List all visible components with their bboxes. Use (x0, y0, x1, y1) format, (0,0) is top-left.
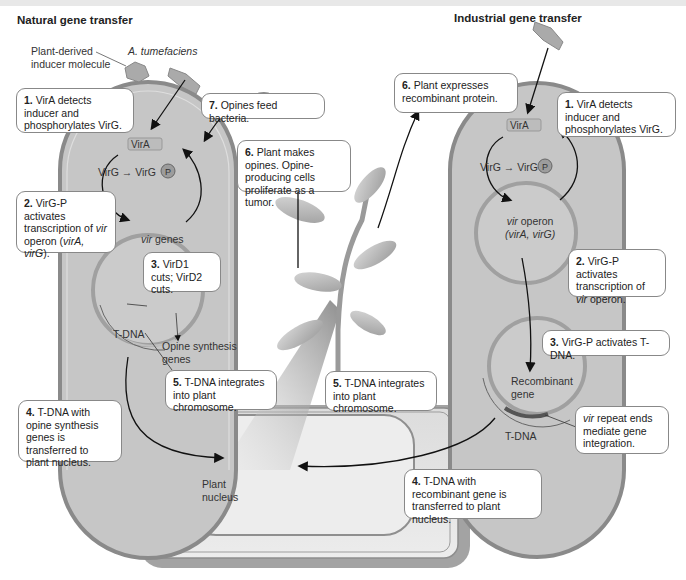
vir-operon-genes: (virA, virG) (505, 228, 555, 241)
vir-operon-label: vir operon (virA, virG) (505, 215, 555, 240)
step-number: 2. (576, 255, 585, 267)
virgp-label: VirG (517, 161, 538, 173)
industrial-title: Industrial gene transfer (454, 12, 582, 24)
p-label-left: P (165, 166, 171, 179)
step-number: 6. (245, 146, 254, 158)
step-italic: vir (96, 222, 107, 234)
recombinant-gene-label: Recombinant gene (511, 375, 573, 400)
step-number: 5. (173, 376, 182, 388)
step-box-natural-7: 7. Opines feed bacteria. (201, 93, 325, 119)
step-number: 3. (550, 336, 559, 348)
step-text: T-DNA integrates into plant chromosome. (173, 376, 264, 413)
organism-label: A. tumefaciens (128, 45, 197, 58)
genes-text: genes (152, 233, 184, 245)
step-italic: vir (583, 412, 594, 424)
vir-italic: vir (141, 233, 152, 245)
opine-line2: genes (162, 353, 237, 366)
step-box-industrial-3: 3. VirG-P activates T-DNA. (542, 330, 670, 356)
step-text: T-DNA with opine synthesis genes is tran… (26, 406, 98, 468)
virg-label: VirG (480, 161, 501, 173)
vir-genes-label: vir genes (141, 233, 184, 246)
operon-text: operon (518, 215, 554, 227)
step-box-vir-repeat: vir repeat ends mediate gene integration… (575, 406, 669, 454)
virg-reaction-right: VirG → VirG (480, 161, 538, 174)
inducer-label-line2: inducer molecule (31, 58, 110, 71)
reaction-arrow-icon: → (504, 161, 515, 173)
step-box-natural-5: 5. T-DNA integrates into plant chromosom… (165, 370, 277, 410)
recombinant-line2: gene (511, 388, 573, 401)
step-number: 7. (209, 99, 218, 111)
step-box-industrial-2: 2. VirG-P activates transcription of vir… (568, 249, 666, 297)
step-box-industrial-5: 5. T-DNA integrates into plant chromosom… (325, 371, 437, 411)
step-number: 3. (151, 258, 160, 270)
step-number: 2. (24, 197, 33, 209)
vira-label-left: VirA (131, 139, 150, 152)
virg-reaction-left: VirG → VirG (98, 166, 156, 179)
inducer-label: Plant-derived inducer molecule (31, 45, 110, 70)
step-italic: vir (576, 293, 587, 305)
step-box-industrial-1: 1. VirA detects inducer and phosphorylat… (557, 92, 676, 137)
step-text: VirG-P activates transcription of (24, 197, 96, 234)
step-text: Plant expresses recombinant protein. (402, 79, 498, 104)
step-number: 1. (24, 94, 33, 106)
step-box-industrial-6: 6. Plant expresses recombinant protein. (394, 73, 518, 113)
step-box-industrial-4: 4. T-DNA with recombinant gene is transf… (404, 469, 542, 519)
reaction-arrow-icon: → (122, 166, 133, 178)
plant-nucleus-label: Plant nucleus (202, 478, 238, 503)
plant-nucleus-line1: Plant (202, 478, 238, 491)
plant-nucleus-line2: nucleus (202, 491, 238, 504)
step-number: 4. (26, 406, 35, 418)
step-number: 4. (412, 475, 421, 487)
virgp-label: VirG (135, 166, 156, 178)
step-text: T-DNA integrates into plant chromosome. (333, 377, 424, 414)
step-text: T-DNA with recombinant gene is transferr… (412, 475, 507, 525)
step-text: repeat ends mediate gene integration. (583, 412, 652, 449)
step-text: VirG-P activates transcription of (576, 255, 645, 292)
vira-label-right: VirA (510, 120, 529, 133)
opine-genes-label: Opine synthesis genes (162, 340, 237, 365)
step-number: 1. (565, 98, 574, 110)
step-text: operon ( (24, 235, 63, 247)
virg-label: VirG (98, 166, 119, 178)
recombinant-line1: Recombinant (511, 375, 573, 388)
step-number: 6. (402, 79, 411, 91)
step-box-natural-6: 6. Plant makes opines. Opine-producing c… (237, 140, 351, 192)
step-box-natural-2: 2. VirG-P activates transcription of vir… (16, 191, 116, 253)
step-text: operon. (587, 293, 626, 305)
step-box-natural-4: 4. T-DNA with opine synthesis genes is t… (18, 400, 122, 462)
natural-title: Natural gene transfer (17, 14, 133, 26)
step-text: ). (43, 247, 49, 259)
step-text: VirA detects inducer and phosphorylates … (24, 94, 122, 131)
vir-italic: vir (507, 215, 518, 227)
tdna-label-left: T-DNA (113, 328, 145, 341)
step-number: 5. (333, 377, 342, 389)
tdna-label-right: T-DNA (505, 430, 537, 443)
opine-line1: Opine synthesis (162, 340, 237, 353)
inducer-label-line1: Plant-derived (31, 45, 110, 58)
step-box-natural-1: 1. VirA detects inducer and phosphorylat… (16, 88, 134, 133)
step-box-natural-3: 3. VirD1 cuts; VirD2 cuts. (143, 252, 221, 292)
p-label-right: P (542, 161, 548, 174)
step-text: VirA detects inducer and phosphorylates … (565, 98, 663, 135)
